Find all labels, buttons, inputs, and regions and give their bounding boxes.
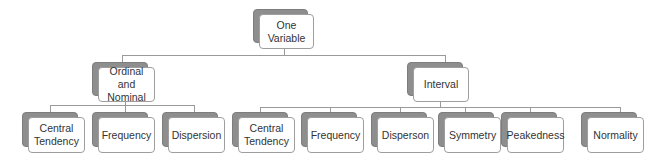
connector-ordinal-bar [50, 105, 195, 106]
hierarchy-diagram: One Variable Ordinal and Nominal Interva… [0, 0, 664, 165]
node-box: One Variable [259, 14, 314, 49]
node-box: Central Tendency [238, 117, 295, 153]
connector-ordinal-child-3 [194, 105, 195, 112]
node-label-line2: Tendency [244, 135, 289, 148]
connector-branch-ordinal-drop [122, 55, 123, 62]
node-label-line1: Interval [424, 78, 458, 91]
node-label-line2: Tendency [34, 135, 79, 148]
node-box: Normality [587, 117, 644, 153]
connector-ordinal-child-1 [50, 105, 51, 112]
node-label-line1: Dispersion [172, 129, 222, 142]
node-label-line1: Peakedness [507, 129, 565, 142]
connector-root-stem [284, 48, 285, 55]
node-label-line1: Normality [593, 129, 637, 142]
node-label-line1: Frequency [102, 129, 152, 142]
node-label-line1: Ordinal and [101, 65, 152, 91]
node-box: Central Tendency [28, 117, 85, 153]
node-box: Peakedness [507, 117, 564, 153]
node-label-line1: Central [34, 122, 79, 135]
node-label-line2: Variable [268, 32, 306, 45]
connector-root-bar [122, 55, 446, 56]
node-box: Symmetry [444, 117, 501, 153]
node-box: Disperson [377, 117, 434, 153]
node-box: Ordinal and Nominal [98, 67, 155, 102]
connector-interval-bar [260, 107, 621, 108]
node-box: Dispersion [168, 117, 225, 153]
connector-ordinal-child-2 [125, 105, 126, 112]
node-label-line1: Frequency [311, 129, 361, 142]
node-box: Frequency [307, 117, 364, 153]
node-box: Frequency [98, 117, 155, 153]
node-label-line1: Central [244, 122, 289, 135]
node-label-line1: Symmetry [449, 129, 496, 142]
node-label-line1: Disperson [382, 129, 429, 142]
node-box: Interval [413, 67, 469, 102]
node-label-line1: One [268, 19, 306, 32]
node-label-line2: Nominal [101, 91, 152, 104]
